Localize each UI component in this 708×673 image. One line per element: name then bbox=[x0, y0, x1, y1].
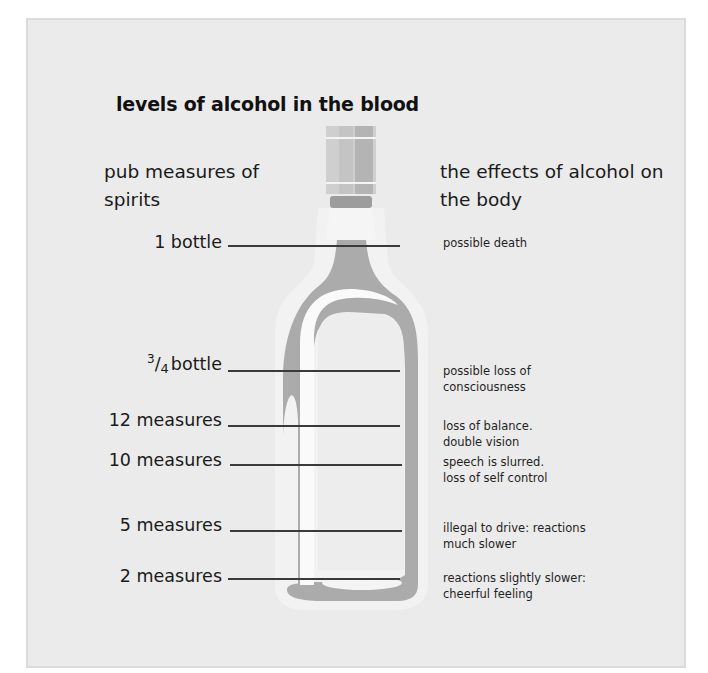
measure-text: bottle bbox=[171, 354, 222, 374]
effect-text: reactions slightly slower: bbox=[443, 570, 643, 586]
level-rule bbox=[228, 370, 400, 372]
right-column-header: the effects of alcohol on the body bbox=[440, 158, 670, 214]
effect-possible-death: possible death bbox=[443, 235, 643, 251]
fraction-denominator: 4 bbox=[161, 361, 169, 376]
fraction-numerator: 3 bbox=[147, 352, 155, 366]
diagram-title: levels of alcohol in the blood bbox=[116, 93, 419, 115]
effect-text: possible death bbox=[443, 235, 643, 251]
level-rule bbox=[228, 578, 400, 580]
effect-text: much slower bbox=[443, 536, 643, 552]
effect-cheerful-feeling: reactions slightly slower: cheerful feel… bbox=[443, 570, 643, 602]
effect-speech-slurred: speech is slurred. loss of self control bbox=[443, 454, 643, 486]
measure-label-12-measures: 12 measures bbox=[109, 410, 222, 430]
effect-loss-of-balance: loss of balance. double vision bbox=[443, 418, 643, 450]
effect-text: double vision bbox=[443, 434, 643, 450]
effect-text: loss of self control bbox=[443, 470, 643, 486]
measure-label-10-measures: 10 measures bbox=[109, 450, 222, 470]
left-column-header: pub measures of spirits bbox=[104, 158, 304, 214]
effect-text: consciousness bbox=[443, 379, 643, 395]
effect-illegal-to-drive: illegal to drive: reactions much slower bbox=[443, 520, 643, 552]
measure-label-three-quarter-bottle: 3/4bottle bbox=[147, 352, 222, 376]
effect-loss-of-consciousness: possible loss of consciousness bbox=[443, 363, 643, 395]
effect-text: loss of balance. bbox=[443, 418, 643, 434]
effect-text: illegal to drive: reactions bbox=[443, 520, 643, 536]
measure-label-1-bottle: 1 bottle bbox=[154, 232, 222, 252]
level-rule bbox=[228, 425, 400, 427]
measure-label-5-measures: 5 measures bbox=[120, 515, 222, 535]
effect-text: possible loss of bbox=[443, 363, 643, 379]
effect-text: speech is slurred. bbox=[443, 454, 643, 470]
level-rule bbox=[230, 530, 402, 532]
effect-text: cheerful feeling bbox=[443, 586, 643, 602]
level-rule bbox=[228, 245, 400, 247]
measure-label-2-measures: 2 measures bbox=[120, 566, 222, 586]
level-rule bbox=[230, 464, 402, 466]
